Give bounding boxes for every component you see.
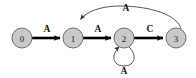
edge-label-2-to-3: C — [147, 24, 154, 34]
state-node-2-label: 2 — [122, 34, 127, 44]
state-node-3[interactable]: 3 — [166, 28, 186, 48]
state-node-1-label: 1 — [71, 34, 76, 44]
state-node-0-label: 0 — [20, 34, 25, 44]
edge-2-self-loop — [114, 47, 134, 67]
edge-label-1-to-2: A — [95, 24, 102, 34]
edge-label-2-self-loop: A — [121, 66, 128, 76]
state-transition-diagram: 0 1 2 3 A A C A A — [0, 0, 196, 78]
diagram-canvas: 0 1 2 3 A A C A A — [0, 0, 196, 78]
edge-label-0-to-1: A — [44, 24, 51, 34]
state-node-3-label: 3 — [174, 34, 179, 44]
state-node-1[interactable]: 1 — [63, 28, 83, 48]
state-node-2[interactable]: 2 — [114, 28, 134, 48]
edge-label-3-to-1: A — [123, 3, 130, 13]
state-node-0[interactable]: 0 — [12, 28, 32, 48]
